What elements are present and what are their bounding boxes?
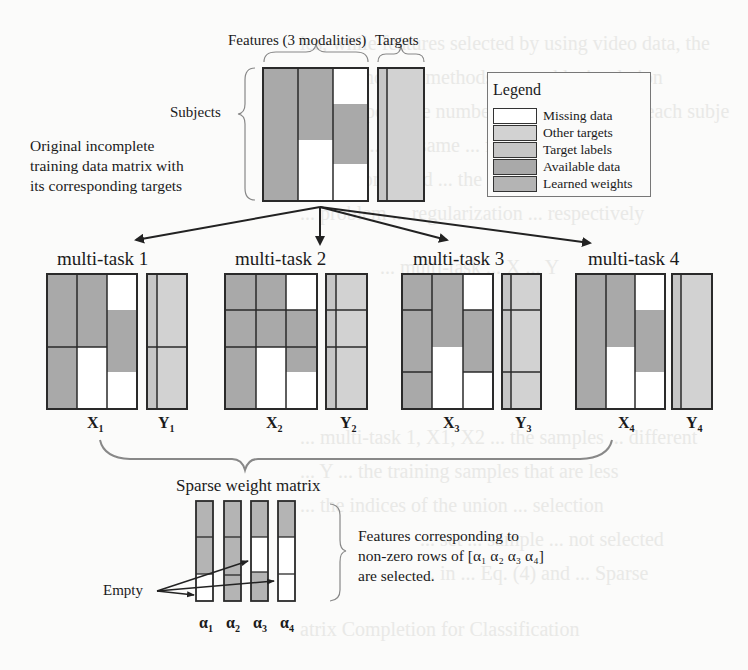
alpha2-label: α2	[226, 614, 240, 632]
legend-label: Target labels	[543, 142, 612, 158]
alpha1-label: α1	[199, 614, 213, 632]
legend-item-missing-data: Missing data	[493, 107, 612, 124]
subjects-brace	[238, 68, 255, 200]
empty-label: Empty	[103, 582, 143, 599]
legend-item-learned-weights: Learned weights	[493, 175, 633, 192]
legend-item-other-targets: Other targets	[493, 124, 613, 141]
tasks-brace	[100, 440, 612, 470]
task1-y-matrix	[147, 274, 187, 409]
task3-x-matrix	[402, 274, 493, 409]
task1-x-label: X1	[87, 414, 104, 432]
task2-x-label: X2	[266, 414, 283, 432]
selected-features-note: Features corresponding to non-zero rows …	[358, 526, 544, 586]
note-line: non-zero rows of [α₁ α₂ α₃ α₄]	[358, 546, 544, 566]
legend-label: Learned weights	[543, 176, 633, 192]
legend-item-available-data: Available data	[493, 158, 620, 175]
original-matrix-description: Original incomplete training data matrix…	[30, 136, 184, 196]
task4-title: multi-task 4	[588, 248, 679, 270]
targets-label: Targets	[375, 32, 419, 49]
note-line: are selected.	[358, 566, 544, 586]
features-label: Features (3 modalities)	[228, 32, 366, 49]
task1-y-label: Y1	[158, 414, 175, 432]
swatch-learned-weights	[493, 176, 537, 192]
swatch-available-data	[493, 159, 537, 175]
task4-x-label: X4	[618, 414, 635, 432]
task2-title: multi-task 2	[235, 248, 326, 270]
subjects-label: Subjects	[170, 104, 221, 121]
task2-y-matrix	[326, 274, 367, 409]
alpha3-label: α3	[253, 614, 267, 632]
description-line: Original incomplete	[30, 136, 184, 156]
task3-x-label: X3	[443, 414, 460, 432]
task1-x-matrix	[47, 274, 137, 409]
task3-y-matrix	[502, 274, 541, 409]
task4-y-matrix	[672, 274, 712, 409]
legend-item-target-labels: Target labels	[493, 141, 612, 158]
task4-y-label: Y4	[686, 414, 703, 432]
legend-title: Legend	[493, 81, 541, 99]
alpha4-label: α4	[280, 614, 294, 632]
legend-label: Missing data	[543, 108, 612, 124]
original-target-matrix	[378, 68, 424, 201]
swatch-missing-data	[493, 108, 537, 124]
task1-title: multi-task 1	[57, 248, 148, 270]
task3-y-label: Y3	[515, 414, 532, 432]
task3-title: multi-task 3	[413, 248, 504, 270]
swatch-target-labels	[493, 142, 537, 158]
legend-label: Other targets	[543, 125, 613, 141]
selected-features-brace	[330, 504, 346, 601]
task2-x-matrix	[225, 274, 317, 409]
original-data-matrix	[263, 68, 368, 201]
legend-box: Legend Missing data Other targets Target…	[487, 72, 651, 197]
description-line: its corresponding targets	[30, 176, 184, 196]
distribution-arrows	[136, 207, 590, 244]
task2-y-label: Y2	[340, 414, 357, 432]
note-line: Features corresponding to	[358, 526, 544, 546]
sparse-matrix-title: Sparse weight matrix	[176, 476, 320, 496]
swatch-other-targets	[493, 125, 537, 141]
description-line: training data matrix with	[30, 156, 184, 176]
task4-x-matrix	[576, 274, 665, 409]
legend-label: Available data	[543, 159, 620, 175]
